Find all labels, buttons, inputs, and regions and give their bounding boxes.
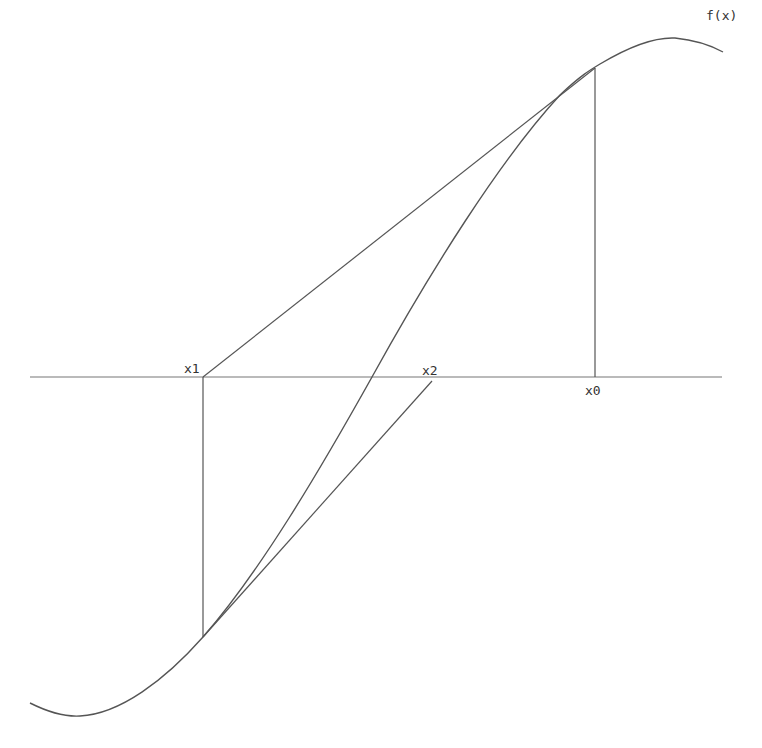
- secant-line-x1-x2: [203, 381, 432, 637]
- label-x2: x2: [422, 363, 438, 378]
- secant-method-diagram: f(x) x1 x2 x0: [0, 0, 762, 748]
- function-label: f(x): [706, 8, 737, 23]
- secant-line-x0-x1: [203, 68, 595, 377]
- label-x1: x1: [184, 361, 200, 376]
- label-x0: x0: [585, 383, 601, 398]
